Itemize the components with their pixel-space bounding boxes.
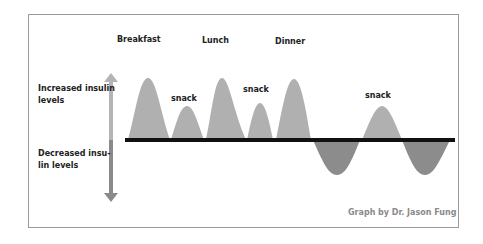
breakfast-peak — [128, 78, 170, 140]
dinner-peak — [276, 79, 311, 140]
lunch-label: Lunch — [202, 36, 229, 45]
dinner-label: Dinner — [275, 37, 305, 46]
increased-insulin-label: Increased insulin levels — [38, 83, 115, 107]
lunch-peak — [206, 78, 246, 140]
snack3-peak — [362, 106, 402, 140]
snack-label-2: snack — [243, 85, 269, 94]
snack2-peak — [247, 103, 273, 140]
baseline — [125, 138, 455, 142]
breakfast-label: Breakfast — [117, 35, 161, 44]
decreased-insulin-label: Decreased insu- lin levels — [38, 148, 111, 172]
snack1-peak — [171, 106, 204, 140]
insulin-dips — [313, 140, 450, 175]
fasting-dip-1 — [313, 140, 360, 175]
graph-credit: Graph by Dr. Jason Fung — [348, 208, 456, 217]
snack-label-1: snack — [171, 94, 197, 103]
fasting-dip-2 — [402, 140, 450, 175]
snack-label-3: snack — [365, 91, 391, 100]
